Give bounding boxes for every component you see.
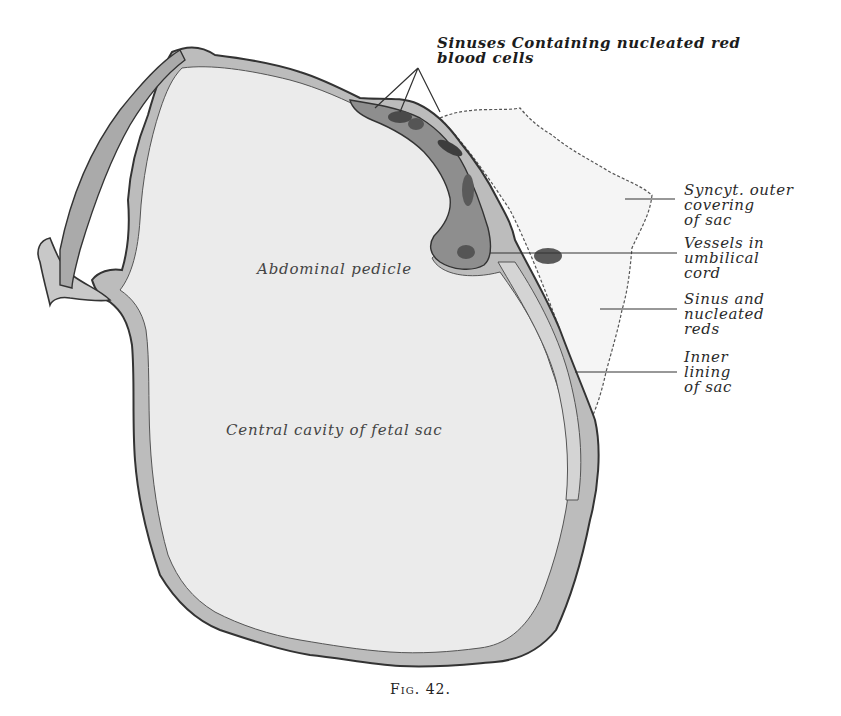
sinus-1	[388, 111, 412, 123]
label-abdominal-pedicle: Abdominal pedicle	[257, 262, 412, 277]
sinus-2	[408, 118, 424, 130]
label-sinuses: Sinuses Containing nucleated red blood c…	[437, 36, 741, 66]
label-sinus-nucleated-reds: Sinus and nucleated reds	[684, 292, 764, 337]
label-syncyt-outer-covering: Syncyt. outer covering of sac	[684, 183, 793, 228]
figure-caption: Fig. 42.	[0, 681, 841, 697]
fetal-sac-figure: Sinuses Containing nucleated red blood c…	[0, 0, 841, 716]
sinus-4	[462, 174, 474, 206]
label-central-cavity: Central cavity of fetal sac	[226, 423, 443, 438]
umbilical-vessels	[534, 248, 562, 264]
label-inner-lining: Inner lining of sac	[684, 350, 732, 395]
pedicle-vessel	[457, 245, 475, 259]
label-vessels-umbilical-cord: Vessels in umbilical cord	[684, 236, 764, 281]
